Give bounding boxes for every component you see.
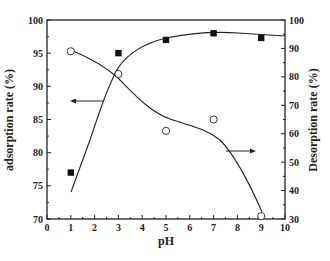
adsorption-marker (68, 169, 74, 175)
y-left-tick-label: 100 (28, 15, 43, 26)
y-right-tick-label: 100 (289, 15, 304, 26)
y-left-tick-label: 85 (33, 114, 43, 125)
y-left-tick-label: 90 (33, 81, 43, 92)
x-tick-label: 6 (187, 222, 192, 233)
x-tick-label: 9 (259, 222, 264, 233)
x-tick-label: 2 (92, 222, 97, 233)
y-right-tick-label: 80 (289, 71, 299, 82)
y-left-tick-label: 95 (33, 48, 43, 59)
y-right-tick-label: 90 (289, 43, 299, 54)
adsorption-marker (115, 50, 121, 56)
y-right-tick-label: 70 (289, 100, 299, 111)
y-right-axis-title: Desorption rate (%) (306, 68, 320, 171)
y-left-tick-label: 70 (33, 214, 43, 225)
desorption-marker (210, 116, 217, 123)
desorption-marker (115, 70, 122, 77)
dual-axis-chart: 012345678910 707580859095100 30405060708… (0, 0, 330, 261)
x-tick-label: 1 (68, 222, 73, 233)
y-left-tick-label: 75 (33, 180, 43, 191)
y-right-tick-label: 60 (289, 128, 299, 139)
y-right-tick-label: 30 (289, 214, 299, 225)
y-left-tick-label: 80 (33, 147, 43, 158)
x-tick-label: 8 (235, 222, 240, 233)
x-tick-label: 4 (140, 222, 145, 233)
x-tick-label: 3 (116, 222, 121, 233)
desorption-marker (162, 127, 169, 134)
adsorption-marker (163, 37, 169, 43)
y-right-tick-label: 40 (289, 185, 299, 196)
desorption-marker (67, 48, 74, 55)
adsorption-marker (258, 35, 264, 41)
x-tick-label: 0 (45, 222, 50, 233)
y-left-axis-title: adsorption rate (%) (2, 69, 16, 171)
desorption-marker (258, 213, 265, 220)
adsorption-marker (210, 30, 216, 36)
y-right-tick-label: 50 (289, 157, 299, 168)
x-tick-label: 7 (211, 222, 216, 233)
x-tick-label: 5 (164, 222, 169, 233)
x-axis-title: pH (158, 234, 175, 248)
